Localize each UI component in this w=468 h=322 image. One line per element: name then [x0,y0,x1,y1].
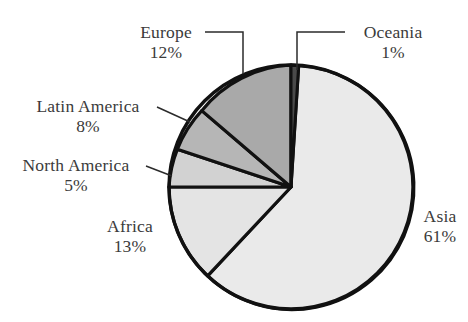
slice-label-oceania-name: Oceania [364,22,423,42]
slice-label-latin-america-value: 8% [21,116,155,136]
slice-label-africa-value: 13% [92,236,168,256]
slice-label-africa-name: Africa [107,216,153,236]
slice-label-africa: Africa 13% [92,216,168,256]
slice-label-oceania-value: 1% [350,42,436,62]
leader-line-north-america [146,166,172,176]
pie-chart-figure: Europe 12% Oceania 1% Latin America 8% N… [0,0,468,322]
pie-slices [169,65,414,310]
slice-label-latin-america-name: Latin America [36,96,139,116]
slice-label-europe-value: 12% [126,42,206,62]
slice-label-north-america-value: 5% [8,175,144,195]
leader-line-latin-america [157,107,190,122]
slice-label-latin-america: Latin America 8% [21,96,155,136]
slice-label-asia-value: 61% [414,226,466,246]
slice-label-north-america: North America 5% [8,155,144,195]
slice-label-north-america-name: North America [22,155,129,175]
leader-line-europe [205,32,243,74]
slice-label-oceania: Oceania 1% [350,22,436,62]
slice-label-europe: Europe 12% [126,22,206,62]
slice-label-asia-name: Asia [424,206,457,226]
slice-label-asia: Asia 61% [414,206,466,246]
slice-label-europe-name: Europe [140,22,192,42]
